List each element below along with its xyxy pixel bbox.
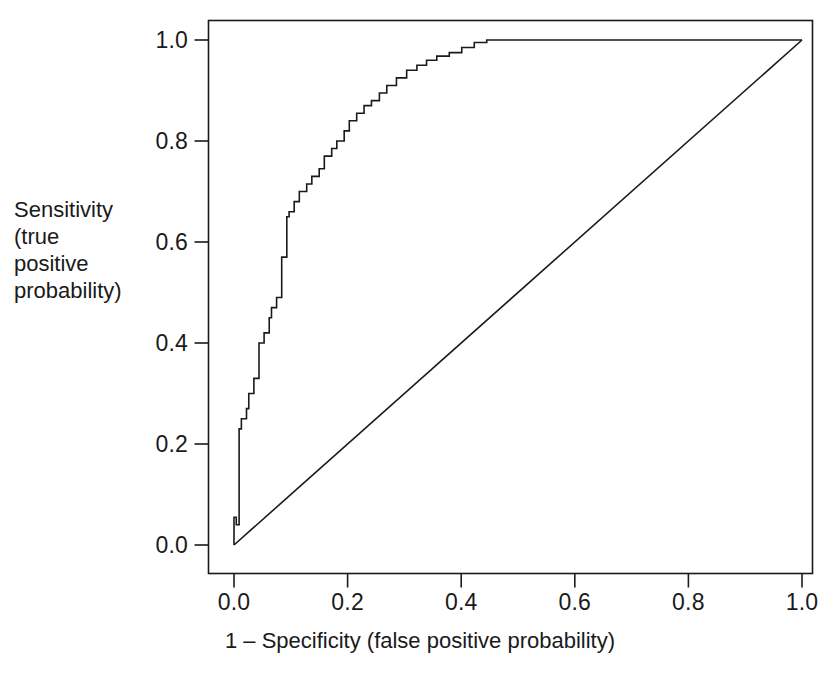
y-axis-label-line-3: positive [14, 250, 184, 277]
x-tick-label-0: 0.0 [218, 589, 251, 616]
y-tick-label-5: 1.0 [120, 27, 188, 54]
y-tick-label-0: 0.0 [120, 532, 188, 559]
chance-diagonal-line [234, 40, 802, 545]
x-tick-label-1: 0.2 [331, 589, 364, 616]
y-tick-label-2: 0.4 [120, 330, 188, 357]
plot-box-border [209, 21, 813, 574]
y-axis-label-line-4: probability) [14, 277, 184, 304]
y-axis-label: Sensitivity (true positive probability) [14, 196, 184, 304]
axis-ticks [195, 40, 803, 588]
y-axis-label-line-1: Sensitivity [14, 196, 184, 223]
x-tick-label-4: 0.8 [672, 589, 705, 616]
x-tick-label-3: 0.6 [559, 589, 592, 616]
data-series-group [234, 40, 802, 545]
x-axis-label: 1 – Specificity (false positive probabil… [0, 628, 840, 654]
x-tick-label-2: 0.4 [445, 589, 478, 616]
x-tick-label-5: 1.0 [786, 589, 819, 616]
y-axis-label-line-2: (true [14, 223, 184, 250]
y-tick-label-1: 0.2 [120, 431, 188, 458]
roc-chart-figure: 0.00.20.40.60.81.0 0.00.20.40.60.81.0 Se… [0, 0, 840, 682]
plot-frame [209, 21, 813, 574]
y-tick-label-4: 0.8 [120, 128, 188, 155]
